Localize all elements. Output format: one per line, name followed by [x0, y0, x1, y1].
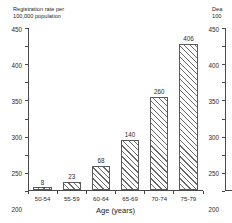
bar-value-label: 68	[97, 157, 104, 164]
y-tick-mark-clipped: 350	[222, 64, 225, 65]
bar-value-label: 140	[125, 131, 136, 138]
plot-area-clipped: 050100150200250300350400450	[225, 28, 232, 191]
x-tick-mark	[28, 191, 29, 194]
y-axis-line	[28, 28, 29, 191]
bar	[33, 187, 51, 190]
y-tick-mark-clipped: 50	[222, 173, 225, 174]
y-tick-label-clipped: 450	[209, 26, 220, 33]
y-tick-mark-clipped: 400	[222, 46, 225, 47]
figure-canvas: Registration rate per 100,000 population…	[0, 0, 232, 223]
y-tick-mark: 300	[25, 82, 28, 83]
bar	[179, 44, 197, 190]
y-tick-mark-clipped: 450	[222, 28, 225, 29]
y-tick-label-clipped: 350	[209, 98, 220, 105]
bar-value-label: 23	[68, 173, 75, 180]
y-tick-label: 400	[12, 62, 23, 69]
x-tick-label: 55-59	[64, 195, 80, 202]
y-tick-label: 300	[12, 134, 23, 141]
y-tick-label-clipped: 400	[209, 62, 220, 69]
x-tick-mark	[173, 191, 174, 194]
y-tick-mark-clipped: 150	[222, 137, 225, 138]
y-tick-mark-clipped: 100	[222, 155, 225, 156]
x-tick-mark	[203, 191, 204, 194]
bar-value-label: 8	[41, 179, 45, 186]
y-tick-mark: 450	[25, 28, 28, 29]
y-axis-title-clipped: Dea 100	[212, 6, 222, 19]
y-tick-mark-clipped: 300	[222, 82, 225, 83]
chart-panel-death-rate-clipped: Dea 100 050100150200250300350400450	[206, 0, 232, 223]
bar	[92, 166, 110, 191]
y-tick-label: 200	[12, 206, 23, 213]
y-tick-label: 350	[12, 98, 23, 105]
x-tick-mark	[144, 191, 145, 194]
y-tick-mark-clipped: 200	[222, 119, 225, 120]
y-tick-label: 250	[12, 170, 23, 177]
bar	[63, 182, 81, 190]
y-tick-mark: 50	[25, 173, 28, 174]
y-tick-mark: 250	[25, 100, 28, 101]
x-tick-label: 65-69	[122, 195, 138, 202]
bar	[121, 140, 139, 190]
x-tick-label: 60-64	[93, 195, 109, 202]
y-tick-mark: 200	[25, 119, 28, 120]
y-axis-title: Registration rate per 100,000 population	[13, 6, 64, 19]
chart-panel-registration-rate: Registration rate per 100,000 population…	[0, 0, 206, 223]
y-tick-mark: 150	[25, 137, 28, 138]
x-tick-label: 50-54	[35, 195, 51, 202]
x-axis-line-clipped	[225, 190, 232, 191]
y-tick-label-clipped: 200	[209, 206, 220, 213]
y-tick-mark: 350	[25, 64, 28, 65]
y-tick-label-clipped: 250	[209, 170, 220, 177]
bar-value-label: 406	[183, 35, 194, 42]
x-tick-mark	[86, 191, 87, 194]
y-tick-mark: 100	[25, 155, 28, 156]
y-tick-mark-clipped: 0	[222, 191, 225, 192]
x-tick-label: 70-74	[151, 195, 167, 202]
y-tick-label-clipped: 300	[209, 134, 220, 141]
y-tick-mark: 400	[25, 46, 28, 47]
bar-value-label: 260	[154, 88, 165, 95]
y-axis-line-clipped	[225, 28, 226, 191]
y-tick-mark-clipped: 250	[222, 100, 225, 101]
y-tick-label: 450	[12, 26, 23, 33]
x-tick-mark	[115, 191, 116, 194]
plot-area: 050100150200250300350400450 50-5455-5960…	[28, 28, 203, 191]
x-tick-label: 75-79	[181, 195, 197, 202]
x-axis-title: Age (years)	[28, 206, 203, 215]
x-tick-mark	[57, 191, 58, 194]
bar	[150, 97, 168, 191]
